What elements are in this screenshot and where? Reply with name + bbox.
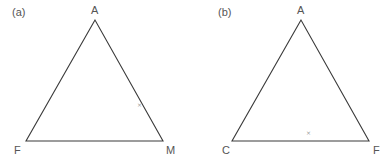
vertex-label-b-top: A (297, 4, 305, 16)
data-point-marker-a: × (137, 101, 142, 108)
panel-label-b: (b) (218, 6, 231, 18)
triangle-a (26, 20, 163, 141)
data-point-marker-b: × (306, 129, 311, 136)
panel-a: (a) A F M × (12, 4, 175, 156)
vertex-label-a-top: A (91, 4, 99, 16)
vertex-label-b-bottom-right: F (373, 144, 380, 156)
vertex-label-a-bottom-right: M (166, 144, 175, 156)
diagram-canvas: (a) A F M × (b) A C F × (0, 0, 392, 161)
triangle-b (232, 20, 369, 141)
panel-b: (b) A C F × (218, 4, 380, 156)
panel-label-a: (a) (12, 6, 25, 18)
vertex-label-a-bottom-left: F (14, 144, 21, 156)
vertex-label-b-bottom-left: C (222, 144, 230, 156)
